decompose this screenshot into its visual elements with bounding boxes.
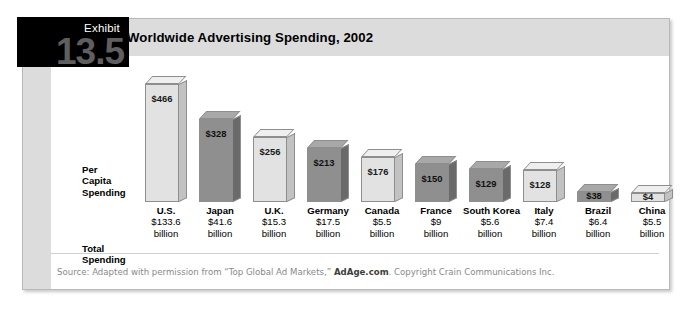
bar-3d: $128: [523, 170, 557, 202]
bar-3d: $129: [469, 169, 503, 202]
total-spending-unit: billion: [409, 228, 463, 239]
bar-3d: $38: [577, 192, 611, 202]
country-label: Brazil: [571, 205, 625, 216]
total-spending-amount: $15.3: [247, 216, 301, 227]
source-note: Source: Adapted with permission from “To…: [57, 267, 659, 277]
total-spending-unit: billion: [193, 228, 247, 239]
total-spending-amount: $41.6: [193, 216, 247, 227]
bar-footer: France$9billion: [409, 205, 463, 239]
exhibit-number: 13.5: [56, 33, 124, 70]
bar-3d: $256: [253, 137, 287, 202]
bar-footer: U.K.$15.3billion: [247, 205, 301, 239]
total-spending-label: Total Spending: [82, 243, 126, 266]
bar-side-face: [557, 166, 565, 202]
title-bar: Worldwide Advertising Spending, 2002: [51, 19, 669, 56]
country-label: U.K.: [247, 205, 301, 216]
country-label: South Korea: [463, 205, 517, 216]
bar-footer: Italy$7.4billion: [517, 205, 571, 239]
bar-series: $466U.S.$133.6billion$328Japan$41.6billi…: [139, 56, 663, 289]
country-label: Germany: [301, 205, 355, 216]
bar-footer: Canada$5.5billion: [355, 205, 409, 239]
source-prefix: Source: Adapted with permission from “To…: [57, 267, 334, 277]
bar-footer: U.S.$133.6billion: [139, 205, 193, 239]
total-spending-unit: billion: [517, 228, 571, 239]
source-divider: [51, 253, 659, 254]
bar-front-face: [199, 119, 233, 202]
country-label: China: [625, 205, 679, 216]
bar-side-face: [287, 133, 295, 202]
country-label: U.S.: [139, 205, 193, 216]
total-spending-unit: billion: [301, 228, 355, 239]
total-line-2: Spending: [82, 254, 126, 265]
country-label: Italy: [517, 205, 571, 216]
total-spending-unit: billion: [247, 228, 301, 239]
chart-plot-area: Per Capita Spending Total Spending $466U…: [51, 56, 669, 289]
total-spending-amount: $5.6: [463, 216, 517, 227]
total-spending-unit: billion: [571, 228, 625, 239]
bar-side-face: [233, 115, 241, 202]
per-capita-spending-label: Per Capita Spending: [82, 164, 126, 198]
total-spending-amount: $17.5: [301, 216, 355, 227]
exhibit-figure: Worldwide Advertising Spending, 2002 Per…: [0, 0, 692, 329]
bar-3d: $213: [307, 148, 341, 202]
bar-front-face: [415, 164, 449, 202]
total-spending-unit: billion: [139, 228, 193, 239]
total-spending-amount: $5.5: [625, 216, 679, 227]
source-adage-link: AdAge.com: [334, 267, 389, 277]
bar-front-face: [307, 148, 341, 202]
bar-front-face: [631, 193, 665, 202]
bar-3d: $328: [199, 119, 233, 202]
bar-footer: Germany$17.5billion: [301, 205, 355, 239]
bar-side-face: [341, 144, 349, 202]
bar-front-face: [577, 192, 611, 202]
bar-front-face: [145, 84, 179, 202]
bar-footer: South Korea$5.6billion: [463, 205, 517, 239]
per-capita-line-1: Per: [82, 164, 126, 175]
total-spending-unit: billion: [355, 228, 409, 239]
exhibit-badge: Exhibit 13.5: [17, 17, 129, 67]
bar-footer: China$5.5billion: [625, 205, 679, 239]
country-label: Canada: [355, 205, 409, 216]
bar-side-face: [179, 80, 187, 202]
total-spending-amount: $9: [409, 216, 463, 227]
source-suffix: . Copyright Crain Communications Inc.: [389, 267, 555, 277]
bar-3d: $4: [631, 193, 665, 202]
bar-front-face: [361, 157, 395, 202]
bar-side-face: [503, 165, 511, 202]
total-spending-amount: $5.5: [355, 216, 409, 227]
country-label: Japan: [193, 205, 247, 216]
total-spending-amount: $6.4: [571, 216, 625, 227]
page-title: Worldwide Advertising Spending, 2002: [127, 30, 373, 45]
per-capita-line-2: Capita: [82, 175, 126, 186]
total-spending-amount: $133.6: [139, 216, 193, 227]
bar-side-face: [395, 153, 403, 202]
bar-footer: Japan$41.6billion: [193, 205, 247, 239]
per-capita-line-3: Spending: [82, 187, 126, 198]
bar-3d: $176: [361, 157, 395, 202]
bar-front-face: [469, 169, 503, 202]
bar-front-face: [523, 170, 557, 202]
total-spending-unit: billion: [463, 228, 517, 239]
bar-3d: $466: [145, 84, 179, 202]
bar-footer: Brazil$6.4billion: [571, 205, 625, 239]
total-spending-unit: billion: [625, 228, 679, 239]
bar-3d: $150: [415, 164, 449, 202]
bar-front-face: [253, 137, 287, 202]
total-spending-amount: $7.4: [517, 216, 571, 227]
country-label: France: [409, 205, 463, 216]
bar-side-face: [449, 160, 457, 202]
